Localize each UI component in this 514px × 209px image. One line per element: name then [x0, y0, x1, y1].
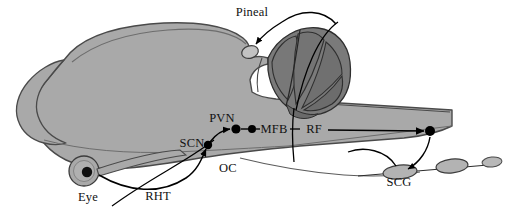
label-pineal: Pineal	[236, 5, 269, 19]
label-pvn: PVN	[209, 111, 235, 125]
pineal-arrow-head-line	[256, 22, 282, 44]
rf-to-iml-tract	[328, 130, 424, 131]
label-scg: SCG	[387, 175, 412, 189]
label-scn: SCN	[180, 136, 205, 150]
eye-pupil	[82, 167, 92, 177]
label-oc: OC	[219, 161, 237, 175]
chain-nerve-line	[358, 164, 500, 176]
iml-to-scg-fiber	[408, 137, 430, 169]
ganglion-3	[482, 156, 503, 168]
mfb-dot	[248, 125, 256, 133]
label-rf: RF	[306, 122, 322, 136]
pvn-dot	[231, 124, 240, 133]
brain-body	[16, 23, 452, 176]
sympathetic-chain	[358, 156, 502, 181]
label-eye: Eye	[78, 190, 98, 204]
scg-to-pineal-fiber	[348, 149, 396, 166]
scn-dot	[204, 141, 212, 149]
label-rht: RHT	[145, 189, 171, 203]
figure-canvas: Pineal PVN MFB RF SCN OC Eye RHT SCG	[0, 0, 514, 209]
cerebrum-shape	[32, 23, 452, 169]
label-mfb: MFB	[260, 122, 287, 136]
ganglion-2	[435, 157, 468, 174]
pineal-label-arrow	[282, 12, 336, 24]
neuroanatomy-diagram: Pineal PVN MFB RF SCN OC Eye RHT SCG	[0, 0, 514, 209]
iml-dot	[425, 126, 435, 136]
